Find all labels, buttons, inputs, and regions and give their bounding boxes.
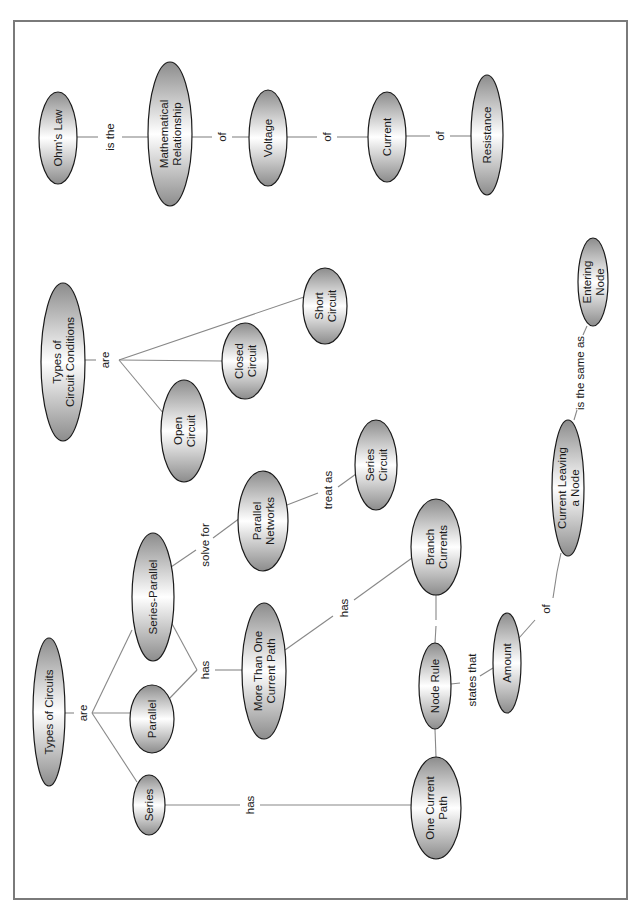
node-label-entering-node: Entering xyxy=(581,261,593,304)
edge-ocp-node-rule-0 xyxy=(435,729,436,757)
node-label-parallel: Parallel xyxy=(146,700,158,738)
node-label-ohms-law: Ohm's Law xyxy=(52,109,64,167)
node-label-closed-circuit: Closed xyxy=(233,343,245,379)
link-label-ohm-is-the: is the xyxy=(104,123,116,151)
link-label-voltage-of: of xyxy=(321,131,333,141)
edge-pn-treat-as-0 xyxy=(287,493,318,505)
node-label-one-current-path: One Current xyxy=(424,776,436,840)
edge-conditions-are-3 xyxy=(119,297,304,360)
edge-cln-same-as-1 xyxy=(583,326,587,335)
node-label-types-of-circuit-conditions: Types of xyxy=(51,339,63,383)
node-amount: Amount xyxy=(493,613,521,713)
edge-conditions-are-2 xyxy=(119,360,164,414)
node-label-math-relationship: Relationship xyxy=(171,102,183,165)
node-label-amount: Amount xyxy=(501,642,513,682)
edge-mtocp-has-1 xyxy=(354,558,412,600)
node-types-of-circuits: Types of Circuits xyxy=(33,638,65,786)
node-label-current-leaving-a-node: Current Leaving xyxy=(556,447,568,529)
edge-nr-states-that-1 xyxy=(480,668,493,676)
node-current: Current xyxy=(368,92,406,182)
node-label-voltage: Voltage xyxy=(262,119,274,157)
node-label-more-than-one-current-path: More Than One xyxy=(252,631,264,711)
node-label-one-current-path: Path xyxy=(437,796,449,820)
link-label-cln-same-as: is the same as xyxy=(574,336,586,410)
node-series-parallel: Series-Parallel xyxy=(132,533,174,661)
node-series-circuit: SeriesCircuit xyxy=(355,420,397,510)
node-branch-currents: BranchCurrents xyxy=(411,499,461,595)
node-label-open-circuit: Circuit xyxy=(185,414,197,447)
node-resistance: Resistance xyxy=(471,75,503,195)
link-label-circuits-are: are xyxy=(77,705,89,722)
node-open-circuit: OpenCircuit xyxy=(161,380,207,482)
concept-map: is theofofofarearehassolve fortreat asha… xyxy=(0,0,639,916)
edge-amount-of-0 xyxy=(519,620,535,638)
edge-circuits-are-3 xyxy=(92,630,132,713)
node-label-series-circuit: Series xyxy=(364,448,376,481)
node-label-parallel-networks: Parallel xyxy=(251,502,263,540)
node-label-resistance: Resistance xyxy=(481,107,493,164)
node-label-types-of-circuit-conditions: Circuit Conditions xyxy=(64,317,76,407)
node-entering-node: EnteringNode xyxy=(578,238,608,326)
node-label-more-than-one-current-path: Current Path xyxy=(265,638,277,703)
node-closed-circuit: ClosedCircuit xyxy=(222,323,268,399)
link-label-conditions-are: are xyxy=(99,352,111,369)
edge-parallel-has-1 xyxy=(170,620,197,670)
node-label-current-leaving-a-node: a Node xyxy=(569,469,581,506)
node-parallel: Parallel xyxy=(130,685,174,753)
node-ohms-law: Ohm's Law xyxy=(39,92,77,184)
edge-sp-solve-for-0 xyxy=(171,550,196,567)
node-label-branch-currents: Branch xyxy=(424,529,436,565)
link-label-sp-solve-for: solve for xyxy=(199,523,211,567)
node-math-relationship: MathematicalRelationship xyxy=(148,62,192,206)
link-label-nr-states-that: states that xyxy=(466,653,478,707)
node-short-circuit: ShortCircuit xyxy=(303,268,347,344)
edge-sp-solve-for-1 xyxy=(213,518,240,538)
edge-mtocp-has-0 xyxy=(285,616,333,650)
edge-amount-of-1 xyxy=(553,553,561,598)
edge-nr-states-that-0 xyxy=(451,683,460,684)
edge-conditions-are-1 xyxy=(119,360,222,361)
link-label-pn-treat-as: treat as xyxy=(322,471,334,510)
node-label-series: Series xyxy=(143,788,155,821)
node-label-closed-circuit: Circuit xyxy=(246,344,258,377)
node-types-of-circuit-conditions: Types ofCircuit Conditions xyxy=(41,283,85,441)
link-label-math-of: of xyxy=(216,131,228,141)
nodes-layer: Ohm's LawMathematicalRelationshipVoltage… xyxy=(33,62,608,859)
node-label-open-circuit: Open xyxy=(172,417,184,445)
link-label-parallel-has: has xyxy=(199,660,211,679)
node-label-parallel-networks: Networks xyxy=(264,497,276,545)
edge-cln-same-as-0 xyxy=(574,410,577,420)
node-label-short-circuit: Short xyxy=(313,291,325,319)
link-label-series-has: has xyxy=(244,795,256,814)
node-parallel-networks: ParallelNetworks xyxy=(238,471,288,571)
edge-pn-treat-as-1 xyxy=(338,474,356,487)
edge-branch-node-rule-1 xyxy=(435,626,436,643)
node-more-than-one-current-path: More Than OneCurrent Path xyxy=(242,603,286,739)
node-series: Series xyxy=(133,775,165,835)
node-current-leaving-a-node: Current Leavinga Node xyxy=(552,420,584,556)
node-label-node-rule: Node Rule xyxy=(429,659,441,713)
node-voltage: Voltage xyxy=(249,90,287,186)
node-label-entering-node: Node xyxy=(594,268,606,296)
node-label-series-circuit: Circuit xyxy=(377,448,389,481)
node-label-series-parallel: Series-Parallel xyxy=(147,560,159,635)
link-label-mtocp-has: has xyxy=(338,598,350,617)
node-label-branch-currents: Currents xyxy=(437,525,449,569)
node-one-current-path: One CurrentPath xyxy=(411,757,461,859)
node-label-types-of-circuits: Types of Circuits xyxy=(43,669,55,754)
node-label-current: Current xyxy=(381,117,393,156)
link-label-amount-of: of xyxy=(540,603,552,613)
link-label-current-of: of xyxy=(434,130,446,140)
edge-parallel-has-0 xyxy=(168,670,197,700)
node-label-short-circuit: Circuit xyxy=(326,289,338,322)
node-label-math-relationship: Mathematical xyxy=(158,100,170,168)
node-node-rule: Node Rule xyxy=(419,643,451,729)
